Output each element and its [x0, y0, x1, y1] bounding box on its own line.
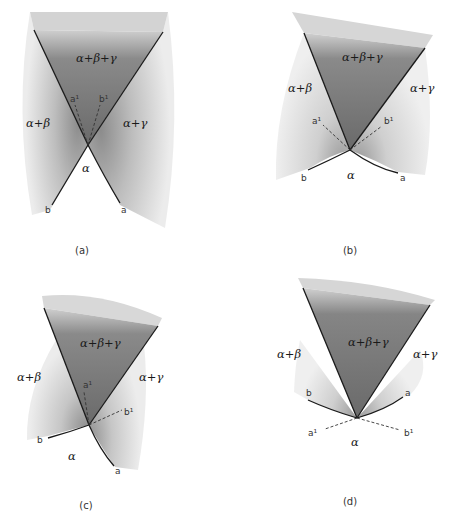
label-right-two-phase: α+γ [123, 116, 147, 130]
label-single-phase: α [82, 161, 90, 175]
label-ext-b: b¹ [404, 428, 414, 438]
label-ext-b: b¹ [384, 116, 394, 126]
label-three-phase: α+β+γ [76, 51, 117, 65]
label-single-phase: α [351, 435, 359, 449]
phase-diagram-c: α+β+γ α+β α+γ α a¹ b¹ b a [0, 260, 230, 521]
label-curve-b: b [301, 173, 307, 183]
phase-diagram-b: α+β+γ α+β α+γ α a¹ b¹ b a [230, 0, 453, 260]
panel-d: α+β+γ α+β α+γ α a¹ b¹ b a (d) [230, 260, 453, 521]
label-curve-a: a [405, 388, 411, 398]
label-curve-b: b [37, 435, 43, 445]
label-curve-a: a [121, 205, 127, 215]
phase-diagram-a: α+β+γ α+β α+γ α a¹ b¹ b a [0, 0, 230, 260]
label-ext-b: b¹ [124, 407, 134, 417]
label-ext-a: a¹ [308, 428, 318, 438]
label-right-two-phase: α+γ [139, 370, 163, 384]
caption-d: (d) [330, 496, 370, 507]
ext-b-dashed [357, 418, 400, 430]
panel-c: α+β+γ α+β α+γ α a¹ b¹ b a (c) [0, 260, 230, 521]
label-three-phase: α+β+γ [80, 336, 121, 350]
label-ext-a: a¹ [70, 94, 80, 104]
caption-b: (b) [330, 245, 370, 256]
label-right-two-phase: α+γ [410, 81, 434, 95]
label-three-phase: α+β+γ [342, 50, 383, 64]
label-left-two-phase: α+β [17, 370, 41, 384]
caption-c: (c) [66, 500, 106, 511]
phase-diagram-d: α+β+γ α+β α+γ α a¹ b¹ b a [230, 260, 453, 521]
label-three-phase: α+β+γ [348, 335, 389, 349]
label-ext-a: a¹ [83, 380, 93, 390]
label-left-two-phase: α+β [277, 347, 301, 361]
label-curve-b: b [306, 388, 312, 398]
label-ext-b: b¹ [99, 94, 109, 104]
label-curve-a: a [115, 466, 121, 476]
label-left-two-phase: α+β [288, 81, 312, 95]
label-right-two-phase: α+γ [413, 347, 437, 361]
panel-b: α+β+γ α+β α+γ α a¹ b¹ b a (b) [230, 0, 453, 260]
panel-a: α+β+γ α+β α+γ α a¹ b¹ b a (a) [0, 0, 230, 260]
label-curve-a: a [400, 173, 406, 183]
label-single-phase: α [68, 449, 76, 463]
label-ext-a: a¹ [312, 116, 322, 126]
caption-a: (a) [62, 245, 102, 256]
label-curve-b: b [45, 205, 51, 215]
ext-a-dashed [325, 418, 357, 429]
label-single-phase: α [347, 168, 355, 182]
label-left-two-phase: α+β [26, 116, 50, 130]
